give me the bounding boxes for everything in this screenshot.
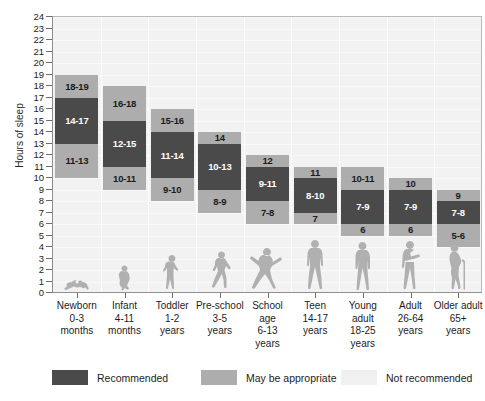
x-axis-tick-mark (172, 293, 173, 298)
y-axis-tick-label: 13 (18, 137, 44, 148)
x-axis-tick-mark (125, 293, 126, 298)
y-axis-tick-label: 7 (18, 206, 44, 217)
x-axis-label-schoolage: Schoolage6-13years (242, 300, 292, 350)
x-axis-label-line: Newborn (52, 300, 102, 313)
bar-segment-recommended-newborn[interactable]: 14-17 (55, 98, 98, 144)
gridline-vertical (196, 17, 197, 292)
y-axis-tick-label: 22 (18, 34, 44, 45)
legend-item-1[interactable]: May be appropriate (201, 370, 336, 385)
bar-segment-may-lower-toddler[interactable]: 9-10 (151, 178, 194, 201)
x-axis-label-line: Older adult (433, 300, 483, 313)
bar-column-teen: 118-107 (294, 17, 337, 293)
x-axis-label-line: Teen (290, 300, 340, 313)
bar-segment-recommended-schoolage[interactable]: 9-11 (246, 167, 289, 202)
y-axis-tick-label: 20 (18, 57, 44, 68)
x-axis-label-line: years (147, 325, 197, 338)
bar-segment-may-upper-adult[interactable]: 10 (389, 178, 432, 190)
x-axis-label-olderadult: Older adult65+years (433, 300, 483, 338)
x-axis-label-line: months (52, 325, 102, 338)
x-axis-tick-mark (77, 293, 78, 298)
legend-swatch-icon (341, 370, 377, 385)
y-axis-tick-label: 8 (18, 195, 44, 206)
bar-segment-recommended-olderadult[interactable]: 7-8 (437, 201, 480, 224)
y-axis-tick-label: 2 (18, 264, 44, 275)
gridline-vertical (101, 17, 102, 292)
x-axis-label-line: School (242, 300, 292, 313)
legend-label: Recommended (97, 372, 168, 384)
y-axis-tick-label: 5 (18, 229, 44, 240)
y-axis-tick-label: 17 (18, 91, 44, 102)
plot-area: 18-1914-1711-1316-1812-1510-1115-1611-14… (53, 16, 482, 292)
bar-segment-may-upper-schoolage[interactable]: 12 (246, 155, 289, 167)
gridline-vertical (148, 17, 149, 292)
bar-segment-may-lower-preschool[interactable]: 8-9 (198, 190, 241, 213)
y-axis-tick-label: 0 (18, 287, 44, 298)
legend-label: May be appropriate (246, 372, 336, 384)
x-axis-label-line: years (385, 325, 435, 338)
bar-segment-may-upper-teen[interactable]: 11 (294, 167, 337, 179)
bar-segment-recommended-preschool[interactable]: 10-13 (198, 144, 241, 190)
gridline-vertical (434, 17, 435, 292)
y-axis-tick-label: 11 (18, 160, 44, 171)
x-axis-tick-mark (220, 293, 221, 298)
bar-segment-recommended-adult[interactable]: 7-9 (389, 190, 432, 225)
x-axis-label-line: 1-2 (147, 313, 197, 326)
bar-column-olderadult: 97-85-6 (437, 17, 480, 293)
bar-segment-may-upper-newborn[interactable]: 18-19 (55, 75, 98, 98)
gridline-vertical (339, 17, 340, 292)
legend-item-2[interactable]: Not recommended (341, 370, 472, 385)
bar-segment-may-upper-infant[interactable]: 16-18 (103, 86, 146, 121)
gridline-vertical (244, 17, 245, 292)
y-axis-tick-label: 16 (18, 103, 44, 114)
y-axis-tick-label: 9 (18, 183, 44, 194)
x-axis-label-line: 4-11 (99, 313, 149, 326)
bar-column-newborn: 18-1914-1711-13 (55, 17, 98, 293)
bar-segment-may-lower-newborn[interactable]: 11-13 (55, 144, 98, 179)
y-axis-tick-label: 6 (18, 218, 44, 229)
x-axis-labels: Newborn0-3monthsInfant4-11monthsToddler1… (53, 300, 482, 352)
bar-segment-may-lower-olderadult[interactable]: 5-6 (437, 224, 480, 247)
gridline-vertical (291, 17, 292, 292)
x-axis-label-line: 3-5 (195, 313, 245, 326)
bar-segment-may-upper-preschool[interactable]: 14 (198, 132, 241, 144)
x-axis-label-preschool: Pre-school3-5years (195, 300, 245, 338)
legend-item-0[interactable]: Recommended (52, 370, 168, 385)
chart-legend: RecommendedMay be appropriateNot recomme… (0, 370, 485, 392)
x-axis-label-line: years (338, 338, 388, 351)
y-axis-tick-label: 4 (18, 241, 44, 252)
bar-segment-recommended-infant[interactable]: 12-15 (103, 121, 146, 167)
gridline-vertical (387, 17, 388, 292)
bar-column-youngadult: 10-117-96 (341, 17, 384, 293)
bar-segment-may-lower-schoolage[interactable]: 7-8 (246, 201, 289, 224)
x-axis-ticks (53, 293, 482, 299)
x-axis-label-infant: Infant4-11months (99, 300, 149, 338)
bar-segment-may-lower-teen[interactable]: 7 (294, 213, 337, 225)
x-axis-label-newborn: Newborn0-3months (52, 300, 102, 338)
y-axis-tick-label: 10 (18, 172, 44, 183)
bar-segment-may-upper-olderadult[interactable]: 9 (437, 190, 480, 202)
x-axis-label-teen: Teen14-17years (290, 300, 340, 338)
x-axis-tick-mark (411, 293, 412, 298)
bar-segment-recommended-youngadult[interactable]: 7-9 (341, 190, 384, 225)
bar-segment-may-upper-toddler[interactable]: 15-16 (151, 109, 194, 132)
x-axis-label-toddler: Toddler1-2years (147, 300, 197, 338)
x-axis-label-youngadult: Young adult18-25years (338, 300, 388, 350)
y-axis-tick-label: 19 (18, 68, 44, 79)
x-axis-label-line: Infant (99, 300, 149, 313)
bar-segment-recommended-teen[interactable]: 8-10 (294, 178, 337, 213)
bar-segment-may-lower-infant[interactable]: 10-11 (103, 167, 146, 190)
bar-segment-may-lower-youngadult[interactable]: 6 (341, 224, 384, 236)
y-axis-tick-label: 18 (18, 80, 44, 91)
x-axis-label-line: 18-25 (338, 325, 388, 338)
legend-swatch-icon (201, 370, 237, 385)
x-axis-label-line: age (242, 313, 292, 326)
y-axis-tick-label: 3 (18, 252, 44, 263)
bar-segment-may-lower-adult[interactable]: 6 (389, 224, 432, 236)
x-axis-label-line: Adult (385, 300, 435, 313)
x-axis-label-line: Young adult (338, 300, 388, 325)
x-axis-tick-mark (363, 293, 364, 298)
y-axis-tick-label: 14 (18, 126, 44, 137)
bar-segment-recommended-toddler[interactable]: 11-14 (151, 132, 194, 178)
bar-column-toddler: 15-1611-149-10 (151, 17, 194, 293)
bar-segment-may-upper-youngadult[interactable]: 10-11 (341, 167, 384, 190)
